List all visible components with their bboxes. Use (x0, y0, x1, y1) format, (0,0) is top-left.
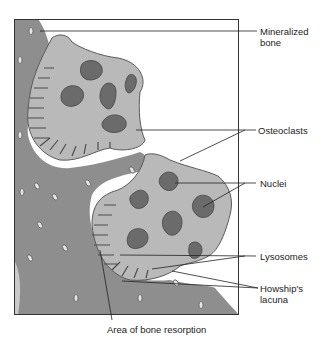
osteoclast-diagram: Mineralized bone Osteoclasts Nuclei Lyso… (0, 0, 325, 343)
label-nuclei: Nuclei (260, 178, 286, 189)
label-mineralized-bone: Mineralized bone (260, 26, 309, 48)
label-lysosomes: Lysosomes (260, 251, 308, 262)
label-area-of-bone-resorption: Area of bone resorption (107, 324, 206, 335)
label-howships-lacuna: Howship's lacuna (260, 283, 303, 305)
label-osteoclasts: Osteoclasts (258, 125, 308, 136)
